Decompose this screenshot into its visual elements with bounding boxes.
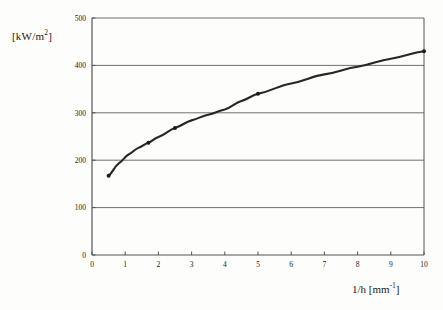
x-tick-label: 4 xyxy=(223,260,227,269)
data-series-line xyxy=(109,51,424,176)
x-tick-label: 8 xyxy=(356,260,360,269)
x-tick-label: 10 xyxy=(420,260,428,269)
x-tick-label: 0 xyxy=(90,260,94,269)
data-point-marker xyxy=(146,141,150,145)
y-tick-label: 400 xyxy=(75,61,87,70)
y-axis-tick-labels: 0100200300400500 xyxy=(75,14,87,260)
x-tick-label: 6 xyxy=(289,260,293,269)
x-tick-label: 7 xyxy=(323,260,327,269)
data-point-marker xyxy=(256,92,260,96)
x-axis-tick-labels: 012345678910 xyxy=(90,260,428,269)
y-tick-label: 300 xyxy=(75,109,87,118)
series-path xyxy=(109,51,424,176)
chart-figure: [kW/m2] 1/h [mm-1] 012345678910 01002003… xyxy=(0,0,443,310)
data-point-marker xyxy=(107,174,111,178)
y-tick-label: 100 xyxy=(75,203,87,212)
data-point-marker xyxy=(173,126,177,130)
x-tick-label: 3 xyxy=(190,260,194,269)
axis-lines xyxy=(92,18,424,255)
x-tick-label: 9 xyxy=(389,260,393,269)
plot-area: 012345678910 0100200300400500 xyxy=(0,0,443,310)
x-tick-label: 5 xyxy=(256,260,260,269)
data-point-marker xyxy=(422,49,426,53)
y-tick-label: 0 xyxy=(82,251,86,260)
grid-lines xyxy=(92,18,424,208)
y-tick-label: 200 xyxy=(75,156,87,165)
y-tick-label: 500 xyxy=(75,14,87,23)
x-tick-label: 2 xyxy=(157,260,161,269)
x-tick-label: 1 xyxy=(123,260,127,269)
data-point-markers xyxy=(107,49,426,178)
